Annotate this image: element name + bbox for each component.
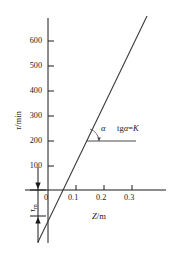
y-axis-ticks: [48, 41, 54, 166]
slope-equation-constant: K: [133, 123, 139, 133]
tau-m-arrow-down: [35, 183, 40, 190]
slope-equation-label: tgα=K: [117, 124, 139, 133]
figure-container: 600 500 400 300 200 100 0 0.1 0.2 0.3 τ/…: [0, 0, 172, 264]
y-tick-label-600: 600: [18, 37, 42, 45]
x-tick-label-0p3: 0.3: [124, 194, 134, 202]
angle-alpha-label: α: [101, 124, 106, 133]
slope-equation-fn: tg: [117, 123, 124, 133]
x-axis-title: Z/m: [92, 212, 106, 221]
tau-m-arrow-up: [35, 217, 40, 224]
y-tick-label-400: 400: [18, 87, 42, 95]
y-axis-title: τ/min: [14, 111, 23, 130]
x-axis-ticks: [76, 185, 132, 190]
y-tick-label-100: 100: [18, 162, 42, 170]
x-tick-label-0: 0: [44, 194, 48, 202]
x-tick-label-0p2: 0.2: [96, 194, 106, 202]
y-tick-label-200: 200: [18, 137, 42, 145]
tau-m-subscript: m: [32, 204, 38, 209]
y-axis-title-symbol: τ: [13, 127, 23, 130]
x-tick-label-0p1: 0.1: [68, 194, 78, 202]
angle-arc-arrowhead: [97, 137, 101, 141]
tau-m-label: τm: [29, 204, 38, 212]
y-tick-label-500: 500: [18, 62, 42, 70]
x-axis-title-unit: /m: [97, 211, 106, 221]
y-axis-title-unit: /min: [13, 111, 23, 127]
tau-m-symbol: τ: [28, 209, 37, 212]
